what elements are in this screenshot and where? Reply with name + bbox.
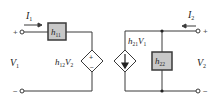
v1-label: V1	[10, 57, 19, 69]
input-minus-label: −	[13, 87, 18, 96]
output-minus-label: −	[203, 87, 208, 96]
output-minus-terminal	[196, 89, 200, 93]
circuit-diagram: + − I1 + − V1 h11 h12V2 h21V1	[0, 0, 220, 107]
i1-arrow-icon	[24, 23, 42, 27]
i1-label: I1	[25, 10, 32, 22]
v2-label: V2	[197, 57, 206, 69]
output-plus-label: +	[203, 27, 208, 36]
node-dot-top	[160, 29, 163, 32]
input-minus-terminal	[20, 89, 24, 93]
h21v1-label: h21V1	[128, 36, 147, 47]
output-plus-terminal	[196, 29, 200, 33]
i2-arrow-icon	[182, 24, 196, 28]
i2-label: I2	[187, 9, 194, 21]
h12v2-label: h12V2	[55, 57, 74, 68]
vs-minus-sign: −	[90, 64, 94, 71]
vs-plus-sign: +	[89, 54, 93, 61]
node-dot-bottom	[160, 89, 163, 92]
input-plus-terminal	[20, 30, 24, 34]
input-plus-label: +	[13, 28, 18, 37]
